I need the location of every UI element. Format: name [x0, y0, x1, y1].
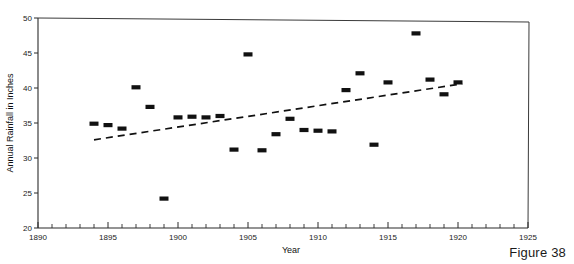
data-point-marker [384, 80, 393, 84]
data-point-marker [426, 78, 435, 82]
data-point-marker [202, 115, 211, 119]
data-point-marker [146, 105, 155, 109]
data-point-marker [286, 117, 295, 121]
data-point-marker [314, 129, 323, 133]
y-axis-title: Annual Rainfall in Inches [5, 73, 15, 173]
data-point-marker [160, 197, 169, 201]
y-tick-label: 30 [23, 154, 32, 163]
x-tick-label: 1900 [169, 233, 187, 242]
y-tick-label: 20 [23, 224, 32, 233]
plot-right-border [528, 22, 529, 228]
y-axis-ticks: 20253035404550 [23, 14, 38, 233]
y-tick-label: 35 [23, 119, 32, 128]
data-point-marker [174, 115, 183, 119]
data-point-marker [454, 80, 463, 84]
data-point-marker [328, 129, 337, 133]
x-tick-label: 1915 [379, 233, 397, 242]
x-axis-title: Year [282, 245, 300, 255]
data-point-marker [272, 132, 281, 136]
data-point-marker [356, 71, 365, 75]
trend-line [94, 84, 462, 140]
x-axis-ticks: 18901895190019051910191519201925 [29, 222, 537, 242]
x-axis-minor-ticks [52, 224, 514, 228]
data-point-marker [342, 88, 351, 92]
x-tick-label: 1905 [239, 233, 257, 242]
y-tick-label: 50 [23, 14, 32, 23]
data-point-marker [188, 115, 197, 119]
x-tick-label: 1920 [449, 233, 467, 242]
y-tick-label: 40 [23, 84, 32, 93]
x-tick-label: 1895 [99, 233, 117, 242]
data-point-marker [370, 143, 379, 147]
x-tick-label: 1890 [29, 233, 47, 242]
data-point-marker [230, 148, 239, 152]
scatter-chart: 20253035404550 1890189519001905191019151… [0, 0, 574, 264]
data-point-marker [90, 122, 99, 126]
x-tick-label: 1910 [309, 233, 327, 242]
data-point-marker [104, 123, 113, 127]
data-points-group [90, 31, 463, 200]
y-tick-label: 45 [23, 49, 32, 58]
data-point-marker [412, 31, 421, 35]
plot-top-border [38, 18, 529, 22]
data-point-marker [244, 52, 253, 56]
data-point-marker [258, 148, 267, 152]
data-point-marker [132, 85, 141, 89]
data-point-marker [118, 127, 127, 131]
figure-caption: Figure 38 [509, 245, 566, 260]
data-point-marker [440, 92, 449, 96]
figure-container: 20253035404550 1890189519001905191019151… [0, 0, 574, 264]
y-tick-label: 25 [23, 189, 32, 198]
data-point-marker [300, 128, 309, 132]
x-tick-label: 1925 [519, 233, 537, 242]
data-point-marker [216, 114, 225, 118]
